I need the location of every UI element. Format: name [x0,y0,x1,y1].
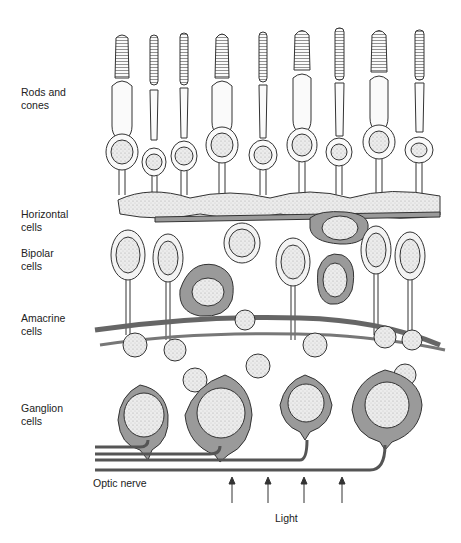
light-arrows [229,477,345,503]
photoreceptor-3 [171,33,197,195]
photoreceptor-layer [106,28,433,195]
photoreceptor-9 [405,30,433,195]
label-ganglion-cells: Ganglion cells [21,402,63,428]
label-amacrine-cells: Amacrine cells [21,312,65,338]
retina-diagram [0,0,461,543]
photoreceptor-8 [363,31,395,196]
photoreceptor-4 [206,34,238,195]
photoreceptor-2 [142,35,166,195]
label-horizontal-cells: Horizontal cells [21,208,68,234]
photoreceptor-5 [249,32,277,195]
ganglion-cell-layer [118,370,422,462]
photoreceptor-1 [106,35,138,195]
photoreceptor-7 [326,28,352,195]
label-bipolar-cells: Bipolar cells [21,247,54,273]
label-rods-cones: Rods and cones [21,86,66,112]
label-optic-nerve: Optic nerve [93,477,147,490]
label-light: Light [275,512,298,525]
photoreceptor-6 [287,31,317,196]
